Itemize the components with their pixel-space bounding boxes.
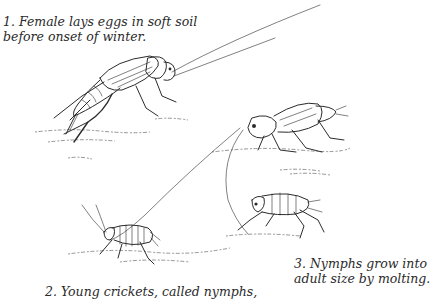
adult-female-cricket-icon — [35, 5, 320, 159]
adult-cricket-with-wings-icon — [110, 103, 350, 240]
nymph-cricket-left-icon — [68, 205, 230, 264]
nymph-cricket-right-icon — [226, 193, 324, 238]
